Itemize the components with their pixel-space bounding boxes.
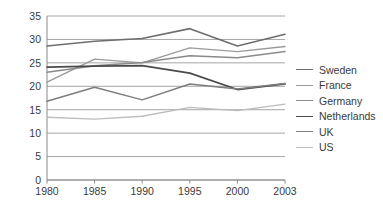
legend-label: France [319, 80, 352, 91]
legend-swatch-netherlands [296, 116, 313, 117]
legend-label: UK [319, 127, 334, 138]
legend-label: Sweden [319, 65, 357, 76]
x-tick-label: 1995 [178, 185, 202, 197]
legend-item-sweden[interactable]: Sweden [296, 62, 382, 78]
legend-item-uk[interactable]: UK [296, 124, 382, 140]
y-tick-label: 25 [29, 57, 41, 69]
data-series-lines [47, 29, 285, 119]
legend-swatch-uk [296, 131, 313, 132]
line-chart: 05101520253035 198019851990199520002003 … [0, 0, 383, 208]
legend-swatch-france [296, 85, 313, 86]
legend-item-france[interactable]: France [296, 78, 382, 94]
x-tick-label: 1990 [131, 185, 155, 197]
series-line-sweden [47, 29, 285, 46]
x-tick-label: 1980 [35, 185, 59, 197]
y-tick-label: 30 [29, 33, 41, 45]
legend-item-netherlands[interactable]: Netherlands [296, 109, 382, 125]
series-line-france [47, 46, 285, 82]
chart-legend: SwedenFranceGermanyNetherlandsUKUS [296, 62, 382, 155]
legend-label: Germany [319, 96, 362, 107]
legend-swatch-sweden [296, 69, 313, 70]
legend-swatch-us [296, 147, 313, 148]
gridlines [47, 16, 285, 180]
x-axis-tick-labels: 198019851990199520002003 [35, 185, 297, 197]
y-tick-label: 20 [29, 80, 41, 92]
legend-label: US [319, 142, 334, 153]
y-tick-label: 10 [29, 127, 41, 139]
y-tick-label: 0 [35, 174, 41, 186]
y-tick-label: 35 [29, 10, 41, 22]
y-tick-label: 5 [35, 150, 41, 162]
legend-label: Netherlands [319, 111, 376, 122]
x-tick-label: 1985 [83, 185, 107, 197]
x-axis-ticks [47, 180, 285, 184]
legend-item-germany[interactable]: Germany [296, 93, 382, 109]
y-axis-tick-labels: 05101520253035 [29, 10, 41, 186]
y-tick-label: 15 [29, 104, 41, 116]
x-tick-label: 2000 [226, 185, 250, 197]
legend-item-us[interactable]: US [296, 140, 382, 156]
legend-swatch-germany [296, 100, 313, 101]
x-tick-label: 2003 [273, 185, 297, 197]
series-line-us [47, 104, 285, 119]
